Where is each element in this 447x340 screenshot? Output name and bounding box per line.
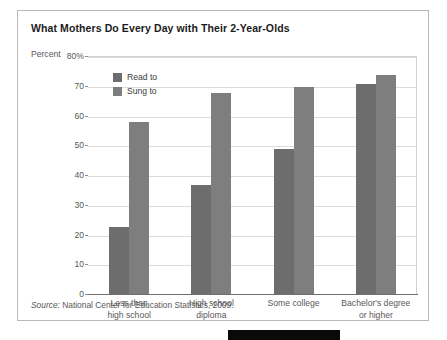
y-tick-label: 50 [74,140,84,150]
y-tick-label: 0 [79,289,84,299]
x-category-label: Bachelor's degreeor higher [335,298,417,321]
legend-item-sung-to: Sung to [113,84,193,98]
legend-item-read-to: Read to [113,70,193,84]
bar-read-to [109,227,129,295]
x-category-label-line: or higher [335,310,417,322]
x-category-label-line: high school [88,310,170,322]
bar-sung-to [376,75,396,295]
x-category-label-line: Bachelor's degree [335,298,417,310]
source-note: Source: National Center for Education St… [31,300,234,310]
x-axis-line [88,294,418,295]
y-tick-label: 30 [74,200,84,210]
bar-read-to [274,149,294,295]
legend-label: Read to [127,72,157,82]
bar-read-to [191,185,211,295]
bar-group [191,57,231,295]
bar-sung-to [129,122,149,295]
bar-group [274,57,314,295]
bar-group [356,57,396,295]
chart-legend: Read toSung to [113,70,193,98]
y-tick-label: 60 [74,111,84,121]
bottom-black-marker [228,330,340,340]
y-tick-label: 40 [74,170,84,180]
x-category-label-line: diploma [170,310,252,322]
page-title: What Mothers Do Every Day with Their 2-Y… [31,22,290,34]
legend-swatch-icon [113,73,122,82]
legend-swatch-icon [113,87,122,96]
y-tick-label: 20 [74,230,84,240]
source-text: National Center for Education Statistics… [60,300,234,310]
bar-sung-to [294,87,314,295]
x-category-label-line: Some college [253,298,335,310]
bar-sung-to [211,93,231,295]
legend-label: Sung to [127,86,157,96]
y-tick-label: 70 [74,81,84,91]
y-tick-label: 80% [67,51,84,61]
y-axis-tick-labels: 01020304050607080% [54,56,84,294]
x-category-label: Some college [253,298,335,310]
source-label: Source: [31,300,60,310]
figure-card: What Mothers Do Every Day with Their 2-Y… [17,10,429,321]
y-tick-label: 10 [74,259,84,269]
bar-read-to [356,84,376,295]
